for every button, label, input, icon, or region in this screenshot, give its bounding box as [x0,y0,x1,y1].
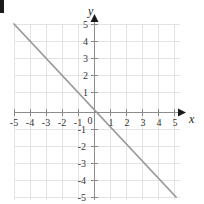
y-tick-label: -4 [70,176,86,186]
x-tick-label: -4 [22,118,38,128]
y-tick-label: -1 [70,125,86,135]
x-axis-label: x [189,113,194,125]
y-tick-label: 3 [72,54,88,64]
x-tick-label: 1 [103,118,119,128]
y-tick-label: -2 [70,142,86,152]
y-tick-label: -5 [70,193,86,203]
x-tick-label: -2 [54,118,70,128]
y-tick-label: 2 [72,71,88,81]
x-tick-label: 3 [135,118,151,128]
y-axis-label: y [88,5,93,17]
graph-figure: -5 -4 -3 -2 -1 0 1 2 3 4 5 5 4 3 2 1 -1 … [0,0,204,204]
y-tick-label: -3 [70,159,86,169]
x-tick-label: 4 [151,118,167,128]
x-tick-label: -5 [6,118,22,128]
x-tick-label: -3 [38,118,54,128]
x-tick-label: 2 [119,118,135,128]
x-tick-label: 5 [167,118,183,128]
y-tick-label: 5 [72,20,88,30]
y-tick-label: 4 [72,37,88,47]
y-tick-label: 1 [72,88,88,98]
coordinate-plane [0,0,204,204]
